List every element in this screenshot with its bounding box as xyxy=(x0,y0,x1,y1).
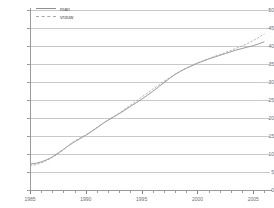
x-tick-mark-minor xyxy=(153,191,154,193)
y-tick-label: 30 xyxy=(248,79,274,85)
x-tick-mark xyxy=(142,191,143,194)
x-tick-mark-minor xyxy=(209,191,210,193)
y-tick-mark xyxy=(27,10,30,11)
x-tick-mark-minor xyxy=(41,191,42,193)
x-tick-mark-minor xyxy=(242,191,243,193)
y-tick-label: 35 xyxy=(248,61,274,67)
gridline xyxy=(30,136,270,137)
x-tick-mark-minor xyxy=(108,191,109,193)
x-tick-label: 2005 xyxy=(238,196,268,202)
gridline xyxy=(30,100,270,101)
y-tick-label: 40 xyxy=(248,43,274,49)
legend-swatch-vrouw-icon xyxy=(36,16,56,17)
gridline xyxy=(30,28,270,29)
gridline xyxy=(30,172,270,173)
x-tick-mark-minor xyxy=(186,191,187,193)
y-tick-mark xyxy=(27,136,30,137)
x-tick-mark xyxy=(253,191,254,194)
legend-swatch-man-icon xyxy=(36,8,56,9)
x-tick-mark-minor xyxy=(220,191,221,193)
legend-label-vrouw: vrouw xyxy=(60,13,73,21)
x-tick-mark-minor xyxy=(119,191,120,193)
y-tick-mark xyxy=(27,154,30,155)
y-tick-mark xyxy=(27,118,30,119)
legend: man vrouw xyxy=(36,5,94,23)
x-tick-label: 1995 xyxy=(127,196,157,202)
y-tick-label: 20 xyxy=(248,115,274,121)
y-tick-label: 50 xyxy=(248,7,274,13)
gridline xyxy=(30,154,270,155)
x-tick-label: 1990 xyxy=(71,196,101,202)
y-tick-label: 15 xyxy=(248,133,274,139)
plot-area xyxy=(30,10,270,190)
x-tick-mark-minor xyxy=(97,191,98,193)
x-tick-mark-minor xyxy=(175,191,176,193)
x-tick-mark-minor xyxy=(63,191,64,193)
x-tick-label: 2000 xyxy=(182,196,212,202)
y-tick-label: 5 xyxy=(248,169,274,175)
x-tick-mark-minor xyxy=(52,191,53,193)
x-tick-mark-minor xyxy=(264,191,265,193)
x-tick-mark-minor xyxy=(130,191,131,193)
y-tick-mark xyxy=(27,64,30,65)
y-tick-mark xyxy=(27,82,30,83)
x-tick-mark xyxy=(86,191,87,194)
gridline xyxy=(30,82,270,83)
gridline xyxy=(30,64,270,65)
x-tick-mark xyxy=(197,191,198,194)
y-tick-label: 10 xyxy=(248,151,274,157)
x-tick-mark-minor xyxy=(75,191,76,193)
y-tick-mark xyxy=(27,46,30,47)
y-tick-mark xyxy=(27,172,30,173)
x-tick-mark-minor xyxy=(231,191,232,193)
x-tick-mark-minor xyxy=(164,191,165,193)
gridline xyxy=(30,118,270,119)
y-tick-mark xyxy=(27,28,30,29)
legend-item-man: man xyxy=(36,5,94,13)
y-axis-line xyxy=(30,8,31,192)
y-tick-label: 0 xyxy=(248,187,274,193)
legend-item-vrouw: vrouw xyxy=(36,13,94,21)
gridline xyxy=(30,46,270,47)
line-chart: 05101520253035404550 1985199019952000200… xyxy=(0,0,274,208)
y-tick-mark xyxy=(27,100,30,101)
legend-label-man: man xyxy=(60,5,70,13)
y-tick-label: 45 xyxy=(248,25,274,31)
x-tick-mark xyxy=(30,191,31,194)
y-tick-label: 25 xyxy=(248,97,274,103)
x-tick-label: 1985 xyxy=(15,196,45,202)
x-axis-line xyxy=(28,190,272,191)
